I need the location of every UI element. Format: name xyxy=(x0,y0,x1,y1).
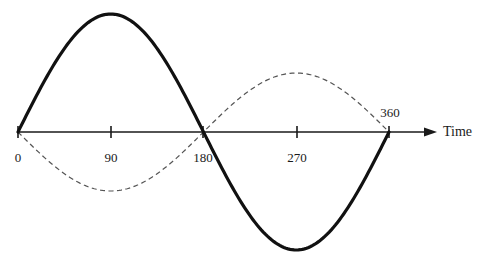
tick-label-180: 180 xyxy=(193,150,213,166)
tick-label-270: 270 xyxy=(287,150,307,166)
tick-label-90: 90 xyxy=(105,150,118,166)
time-axis-arrowhead-icon xyxy=(424,128,437,137)
tick-label-0: 0 xyxy=(15,150,22,166)
tick-label-360: 360 xyxy=(380,105,400,121)
time-axis-label: Time xyxy=(443,124,472,140)
waveform-plot xyxy=(0,0,482,267)
waveform-diagram: 0 90 180 270 360 Time xyxy=(0,0,482,267)
